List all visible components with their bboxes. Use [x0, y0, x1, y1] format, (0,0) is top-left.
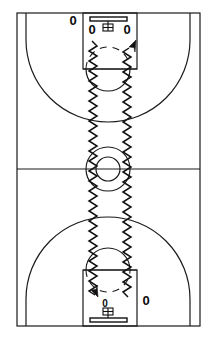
player-marker-top-left-wing[interactable]: 0 [69, 13, 76, 28]
top-half-court [26, 13, 190, 122]
bottom-half-court [26, 217, 190, 326]
player-marker-bottom-lane-left[interactable]: 0 [102, 298, 108, 309]
basketball-court-diagram: 0 0 0 0 0 [0, 0, 217, 340]
player-marker-bottom-right-wing[interactable]: 0 [142, 293, 149, 308]
right-dribble-arrowhead [129, 40, 136, 52]
player-marker-top-lane-right[interactable]: 0 [123, 22, 130, 37]
bottom-backboard [90, 318, 127, 322]
top-backboard [90, 17, 127, 21]
player-marker-top-lane-left[interactable]: 0 [88, 22, 95, 37]
court-svg-canvas: 0 0 0 0 0 [0, 0, 217, 340]
